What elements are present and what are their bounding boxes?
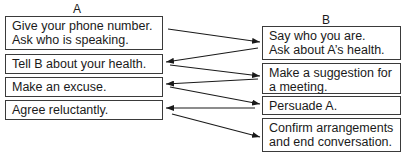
arrow-a2-b2	[170, 65, 260, 76]
arrow-a4-b4	[172, 114, 260, 137]
arrow-a3-b3	[170, 87, 260, 104]
arrow-b2-a3	[166, 79, 258, 84]
flow-arrows	[0, 0, 404, 163]
arrow-a1-b1	[168, 29, 260, 42]
arrow-b1-a2	[166, 48, 258, 62]
